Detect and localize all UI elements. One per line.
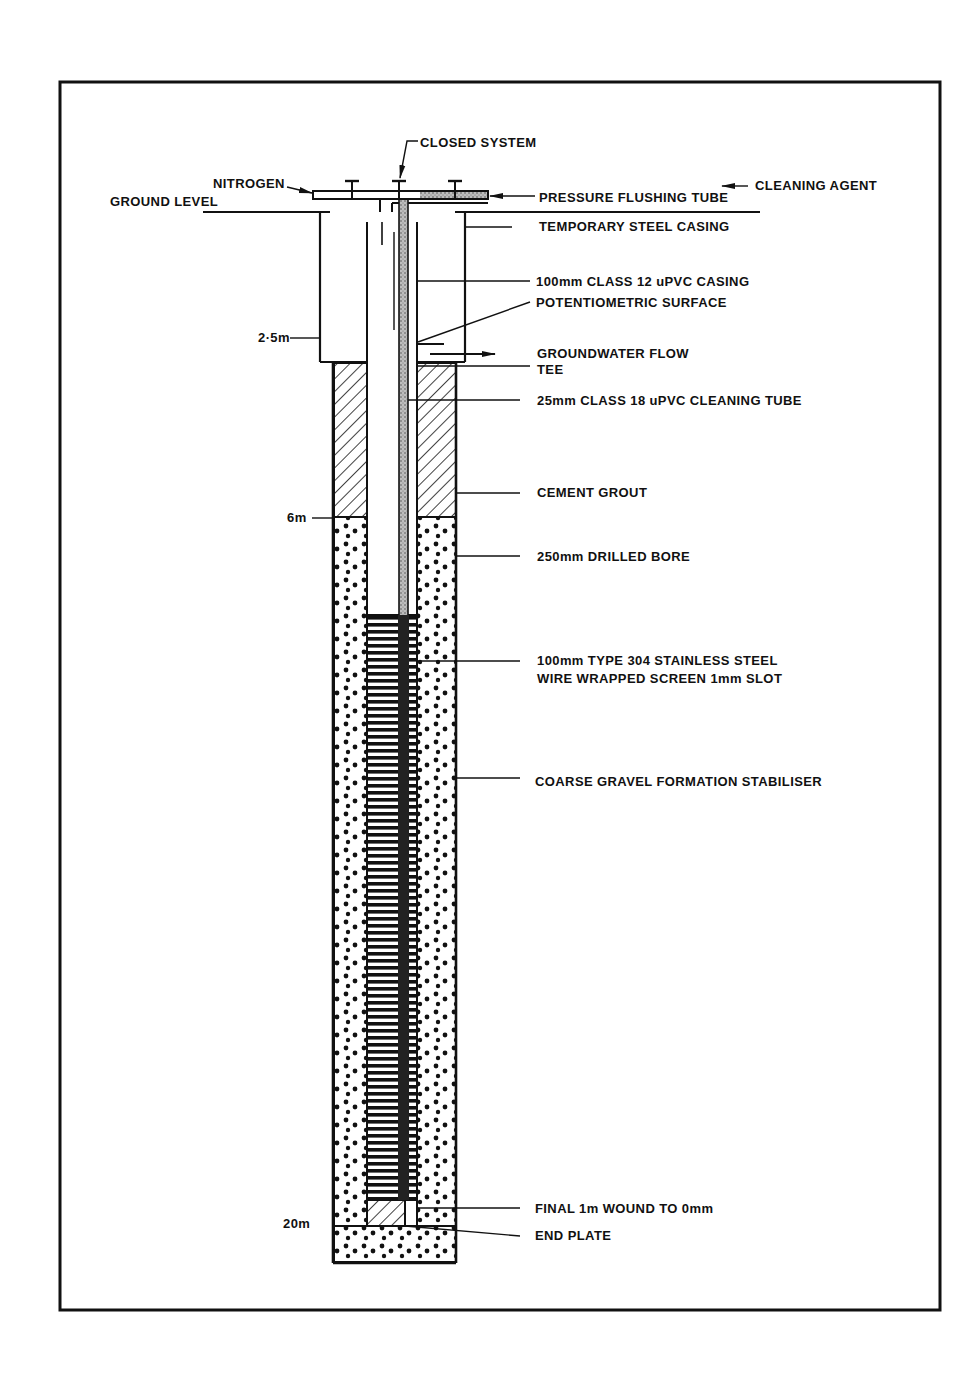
label-temporary-steel-casing: TEMPORARY STEEL CASING — [539, 219, 730, 235]
depth-marker-6m: 6m — [287, 510, 307, 526]
label-cement-grout: CEMENT GROUT — [537, 485, 647, 501]
depth-marker-2-5m: 2·5m — [258, 330, 290, 346]
label-drilled-bore: 250mm DRILLED BORE — [537, 549, 690, 565]
label-screen-line1: 100mm TYPE 304 STAINLESS STEEL — [537, 653, 778, 669]
bore-construction-diagram: CLOSED SYSTEM NITROGEN GROUND LEVEL CLEA… — [0, 0, 980, 1392]
label-groundwater-flow: GROUNDWATER FLOW — [537, 346, 689, 362]
wire-wrapped-screen — [367, 615, 417, 1200]
label-potentiometric-surface: POTENTIOMETRIC SURFACE — [536, 295, 727, 311]
label-upvc-casing: 100mm CLASS 12 uPVC CASING — [536, 274, 749, 290]
label-end-plate: END PLATE — [535, 1228, 611, 1244]
label-coarse-gravel: COARSE GRAVEL FORMATION STABILISER — [535, 774, 822, 790]
label-final-wound: FINAL 1m WOUND TO 0mm — [535, 1201, 713, 1217]
figure-frame — [60, 82, 940, 1310]
depth-marker-20m: 20m — [283, 1216, 310, 1232]
potentiometric-surface — [418, 302, 530, 344]
label-screen-line2: WIRE WRAPPED SCREEN 1mm SLOT — [537, 671, 782, 687]
label-ground-level: GROUND LEVEL — [110, 194, 218, 210]
label-nitrogen: NITROGEN — [213, 176, 285, 192]
upvc-casing — [367, 222, 417, 615]
label-cleaning-tube: 25mm CLASS 18 uPVC CLEANING TUBE — [537, 393, 802, 409]
label-cleaning-agent: CLEANING AGENT — [755, 178, 877, 194]
label-tee: TEE — [537, 362, 563, 378]
end-plate — [367, 1200, 405, 1226]
label-closed-system: CLOSED SYSTEM — [420, 135, 536, 151]
label-pressure-flushing-tube: PRESSURE FLUSHING TUBE — [539, 190, 728, 206]
